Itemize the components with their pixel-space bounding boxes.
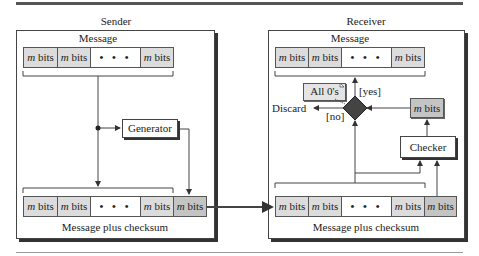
- junction-dot: [96, 126, 101, 131]
- connector-lines: [0, 0, 479, 256]
- decision-diamond: [343, 96, 367, 120]
